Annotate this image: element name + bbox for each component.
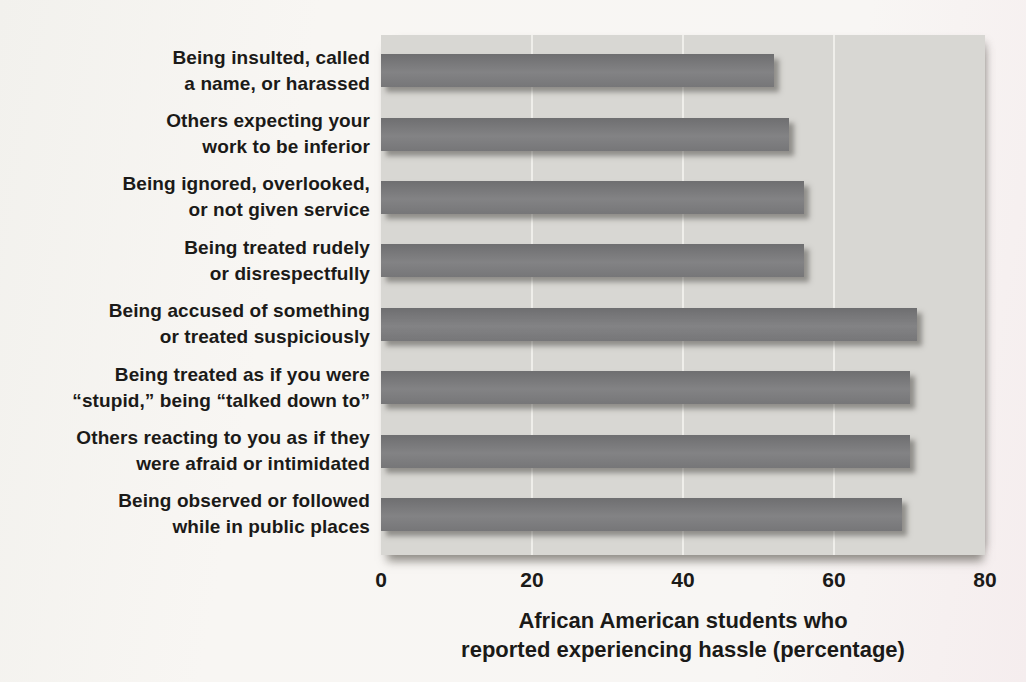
bar bbox=[381, 181, 804, 214]
bar-row bbox=[381, 356, 985, 419]
category-label: Being accused of something or treated su… bbox=[109, 298, 370, 350]
category-label: Being treated as if you were “stupid,” b… bbox=[72, 362, 370, 414]
category-label-row: Being insulted, called a name, or harass… bbox=[0, 39, 370, 102]
bar bbox=[381, 308, 917, 341]
category-label: Others reacting to you as if they were a… bbox=[76, 425, 370, 477]
bar bbox=[381, 435, 910, 468]
category-label-row: Being treated as if you were “stupid,” b… bbox=[0, 356, 370, 419]
category-label-row: Being ignored, overlooked, or not given … bbox=[0, 166, 370, 229]
bar-row bbox=[381, 483, 985, 546]
x-tick-label: 60 bbox=[822, 568, 845, 592]
bar bbox=[381, 54, 774, 87]
x-tick-label: 40 bbox=[671, 568, 694, 592]
category-label-row: Others expecting your work to be inferio… bbox=[0, 102, 370, 165]
x-tick-label: 0 bbox=[375, 568, 387, 592]
category-label: Being ignored, overlooked, or not given … bbox=[122, 171, 370, 223]
category-label: Others expecting your work to be inferio… bbox=[166, 108, 370, 160]
category-label-row: Being observed or followed while in publ… bbox=[0, 483, 370, 546]
bar bbox=[381, 498, 902, 531]
category-label: Being treated rudely or disrespectfully bbox=[184, 235, 370, 287]
bar-row bbox=[381, 39, 985, 102]
x-axis-ticks: 020406080 bbox=[381, 568, 985, 594]
category-label-row: Being accused of something or treated su… bbox=[0, 293, 370, 356]
x-tick-label: 20 bbox=[520, 568, 543, 592]
category-labels: Being insulted, called a name, or harass… bbox=[0, 35, 370, 546]
x-tick-label: 80 bbox=[973, 568, 996, 592]
bar bbox=[381, 118, 789, 151]
x-axis-title: African American students who reported e… bbox=[381, 606, 985, 664]
bar-row bbox=[381, 419, 985, 482]
category-label: Being observed or followed while in publ… bbox=[118, 488, 370, 540]
bar-row bbox=[381, 293, 985, 356]
bar-row bbox=[381, 229, 985, 292]
category-label-row: Being treated rudely or disrespectfully bbox=[0, 229, 370, 292]
bar-row bbox=[381, 102, 985, 165]
textbook-chart-page: Being insulted, called a name, or harass… bbox=[0, 0, 1026, 682]
category-label-row: Others reacting to you as if they were a… bbox=[0, 419, 370, 482]
bar-row bbox=[381, 166, 985, 229]
bar bbox=[381, 371, 910, 404]
category-label: Being insulted, called a name, or harass… bbox=[172, 45, 370, 97]
bar bbox=[381, 244, 804, 277]
bars-container bbox=[381, 35, 985, 555]
plot-area bbox=[381, 35, 985, 555]
